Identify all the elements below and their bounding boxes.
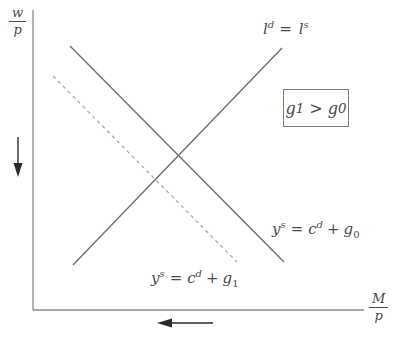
supply-g1-term1: c <box>187 269 195 287</box>
labor-relation: = <box>279 20 292 38</box>
supply-g0-relation: = <box>291 220 304 238</box>
down-arrow-icon <box>14 137 23 177</box>
box-relation: > <box>309 99 322 118</box>
y-axis-denominator: p <box>13 22 21 37</box>
supply-g1-line-dashed <box>53 76 237 262</box>
supply-g0-term1: c <box>308 220 316 238</box>
left-arrow-icon <box>157 319 213 328</box>
supply-g0-operator: + <box>327 220 340 238</box>
supply-g0-term2-sub: 0 <box>353 229 359 240</box>
y-axis-label: w p <box>9 6 26 38</box>
annotation-box: g1>g0 <box>283 89 349 127</box>
box-rhs-sub: 0 <box>338 101 346 116</box>
supply-g1-label: ys=cd+g1 <box>151 271 239 286</box>
supply-g0-term2: g <box>344 220 354 238</box>
supply-g0-term1-sup: d <box>317 219 323 230</box>
supply-g1-term2: g <box>223 269 233 287</box>
supply-g1-operator: + <box>206 269 219 287</box>
supply-g1-term2-sub: 1 <box>232 278 238 289</box>
economics-diagram: w p M p ld=ls ys=cd+g0 ys=cd+g1 g1>g0 <box>0 0 400 338</box>
supply-g1-relation: = <box>170 269 183 287</box>
supply-g0-lhs-sup: s <box>280 219 285 230</box>
labor-market-label: ld=ls <box>263 22 309 37</box>
labor-rhs-sup: s <box>304 19 309 30</box>
box-rhs: g <box>328 99 338 118</box>
x-axis-denominator: p <box>374 308 382 323</box>
x-axis-label: M p <box>369 292 388 324</box>
supply-g0-label: ys=cd+g0 <box>272 222 360 237</box>
supply-g1-term1-sup: d <box>196 268 202 279</box>
box-lhs-sub: 1 <box>296 101 304 116</box>
diagram-canvas <box>0 0 400 338</box>
labor-lhs-sup: d <box>268 19 274 30</box>
x-axis-numerator: M <box>369 292 388 308</box>
y-axis-numerator: w <box>9 6 26 22</box>
supply-g1-lhs-sup: s <box>159 268 164 279</box>
box-lhs: g <box>286 99 296 118</box>
